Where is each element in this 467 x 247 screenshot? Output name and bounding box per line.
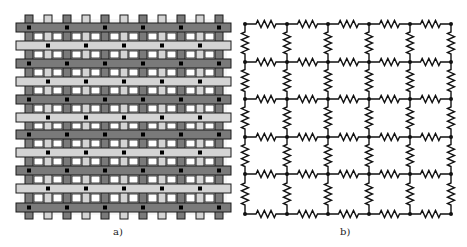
weave-hole (205, 105, 214, 112)
grid-node (326, 135, 330, 139)
horizontal-bar (16, 203, 231, 212)
weave-hole (205, 194, 214, 202)
resistor-horizontal (245, 134, 287, 141)
resistor-vertical (366, 99, 373, 137)
resistor-horizontal (328, 171, 369, 178)
grid-node (449, 22, 453, 26)
grid-node (449, 172, 453, 176)
resistor-horizontal (328, 211, 369, 218)
resistor-vertical (325, 62, 332, 99)
resistor-vertical (325, 174, 332, 214)
weave-hole (110, 51, 119, 58)
weave-hole (129, 194, 138, 202)
weave-hole (72, 158, 81, 165)
weave-hole (53, 140, 62, 147)
grid-node (285, 97, 289, 101)
weave-hole (148, 51, 157, 58)
weave-hole (110, 123, 119, 129)
grid-node (449, 212, 453, 216)
weave-hole (72, 140, 81, 147)
weave-hole (34, 140, 43, 147)
weave-hole (148, 123, 157, 129)
weave-hole (53, 176, 62, 183)
grid-node (243, 60, 247, 64)
contact-dot (141, 26, 145, 30)
weave-hole (205, 123, 214, 129)
contact-dot (27, 26, 31, 30)
weave-hole (167, 123, 176, 129)
weave-hole (53, 158, 62, 165)
resistor-vertical (284, 24, 291, 62)
weave-hole (53, 33, 62, 40)
contact-dot (122, 80, 126, 84)
weave-hole (91, 140, 100, 147)
weave-hole (72, 105, 81, 112)
resistor-horizontal (245, 59, 287, 66)
contact-dot (103, 98, 107, 102)
weave-hole (53, 105, 62, 112)
contact-dot (160, 187, 164, 191)
contact-dot (46, 80, 50, 84)
resistor-vertical (325, 99, 332, 137)
contact-dot (198, 187, 202, 191)
weave-hole (34, 123, 43, 129)
contact-dot (103, 26, 107, 30)
grid-node (449, 97, 453, 101)
grid-node (408, 212, 412, 216)
weave-hole (129, 33, 138, 40)
weave-hole (34, 51, 43, 58)
weave-hole (186, 194, 195, 202)
weave-hole (205, 69, 214, 76)
resistor-horizontal (287, 171, 328, 178)
weave-hole (129, 87, 138, 94)
weave-hole (167, 105, 176, 112)
grid-node (326, 97, 330, 101)
contact-dot (179, 206, 183, 210)
panel-b-label: b) (340, 226, 350, 237)
resistor-vertical (407, 174, 414, 214)
weave-hole (72, 176, 81, 183)
figure-canvas (0, 0, 467, 247)
horizontal-bar (16, 95, 231, 104)
contact-dot (217, 62, 221, 66)
resistor-vertical (284, 137, 291, 174)
weave-hole (91, 158, 100, 165)
weave-hole (167, 33, 176, 40)
weave-hole (186, 123, 195, 129)
weave-hole (110, 176, 119, 183)
contact-dot (198, 44, 202, 48)
resistor-vertical (407, 62, 414, 99)
weave-hole (91, 69, 100, 76)
resistor-horizontal (369, 211, 410, 218)
contact-dot (160, 151, 164, 155)
weave-hole (110, 140, 119, 147)
contact-dot (84, 116, 88, 120)
grid-node (285, 172, 289, 176)
resistor-horizontal (245, 211, 287, 218)
weave-hole (91, 123, 100, 129)
weave-hole (148, 87, 157, 94)
contact-dot (141, 133, 145, 137)
weave-hole (110, 33, 119, 40)
weave-hole (129, 69, 138, 76)
grid-node (367, 135, 371, 139)
weave-hole (186, 158, 195, 165)
weave-hole (34, 105, 43, 112)
resistor-horizontal (287, 21, 328, 28)
resistor-vertical (242, 99, 249, 137)
resistor-vertical (407, 99, 414, 137)
weave-hole (91, 87, 100, 94)
contact-dot (27, 98, 31, 102)
resistor-horizontal (328, 21, 369, 28)
resistor-horizontal (287, 134, 328, 141)
resistor-vertical (448, 62, 455, 99)
grid-node (367, 22, 371, 26)
contact-dot (122, 116, 126, 120)
weave-hole (91, 51, 100, 58)
resistor-vertical (407, 137, 414, 174)
contact-dot (179, 133, 183, 137)
weave-hole (148, 140, 157, 147)
grid-node (243, 97, 247, 101)
weave-hole (91, 194, 100, 202)
contact-dot (198, 151, 202, 155)
